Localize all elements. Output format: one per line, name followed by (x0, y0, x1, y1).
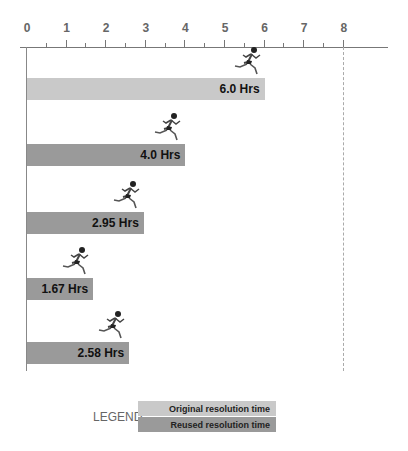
legend-entry-reused: Reused resolution time (138, 417, 276, 432)
running-man-icon (150, 111, 186, 143)
reference-line-8 (343, 47, 344, 371)
bar-reused: 4.0 Hrs (27, 144, 185, 166)
x-tick-label: 0 (24, 21, 31, 35)
resolution-time-chart: 012345678 6.0 Hrs 4.0 Hrs 2.95 Hrs 1.67 … (0, 0, 408, 451)
legend-entry-original: Original resolution time (138, 401, 276, 416)
bar-reused: 2.95 Hrs (27, 212, 144, 234)
legend-title: LEGEND (93, 410, 142, 424)
x-tick-label: 2 (103, 21, 110, 35)
x-axis-line (20, 47, 388, 48)
x-tick-label: 4 (182, 21, 189, 35)
running-man-icon (109, 179, 145, 211)
running-man-icon (58, 245, 94, 277)
bar-reused: 1.67 Hrs (27, 278, 93, 300)
running-man-icon (230, 45, 266, 77)
x-tick-label: 6 (261, 21, 268, 35)
x-tick-label: 5 (222, 21, 229, 35)
x-tick-label: 8 (340, 21, 347, 35)
x-tick-label: 3 (142, 21, 149, 35)
x-tick-label: 1 (63, 21, 70, 35)
bar-reused: 2.58 Hrs (27, 342, 129, 364)
running-man-icon (94, 309, 130, 341)
x-tick-label: 7 (301, 21, 308, 35)
bar-original: 6.0 Hrs (27, 78, 265, 100)
